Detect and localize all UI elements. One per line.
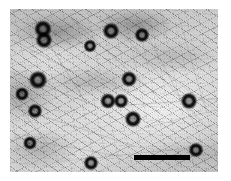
electron-micrograph-image bbox=[10, 9, 218, 172]
scale-bar bbox=[134, 155, 190, 160]
defocus-overlay bbox=[10, 9, 218, 172]
figure-root bbox=[0, 0, 231, 181]
